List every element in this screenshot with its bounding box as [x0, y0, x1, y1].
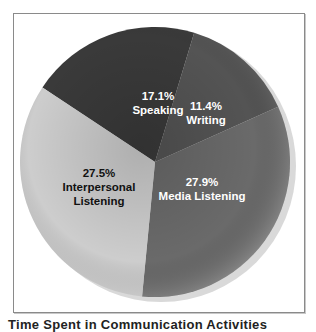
speaking-percent: 17.1% [132, 89, 183, 103]
interpersonal-listening-name-line2: Listening [63, 194, 136, 208]
writing-percent: 11.4% [186, 99, 225, 113]
slice-label-media-listening: 27.9% Media Listening [159, 175, 246, 203]
figure-caption: Time Spent in Communication Activities [8, 317, 267, 332]
speaking-name: Speaking [132, 103, 183, 117]
slice-label-interpersonal-listening: 27.5% Interpersonal Listening [63, 166, 136, 208]
interpersonal-listening-name-line1: Interpersonal [63, 180, 136, 194]
writing-name: Writing [186, 113, 225, 127]
pie-shading [20, 27, 290, 297]
interpersonal-listening-percent: 27.5% [63, 166, 136, 180]
media-listening-percent: 27.9% [159, 175, 246, 189]
media-listening-name: Media Listening [159, 189, 246, 203]
slice-label-writing: 11.4% Writing [186, 99, 225, 127]
slice-label-speaking: 17.1% Speaking [132, 89, 183, 117]
